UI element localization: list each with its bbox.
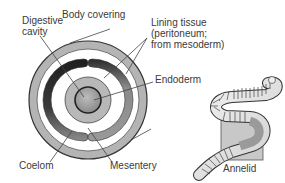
cross-section	[29, 41, 147, 159]
lining-tissue-label: Lining tissue (peritoneum; from mesoderm…	[151, 17, 224, 50]
endoderm-label: Endoderm	[155, 74, 201, 85]
digestive-cavity-label-line2: cavity	[22, 26, 63, 37]
body-covering-label: Body covering	[62, 9, 125, 20]
lining-tissue-label-line3: from mesoderm)	[151, 39, 224, 50]
digestive-cavity-label-line1: Digestive	[22, 15, 63, 26]
coelomate-diagram: Digestive cavity Body covering Lining ti…	[0, 0, 285, 183]
annelid-illustration	[199, 77, 277, 176]
digestive-cavity	[75, 87, 101, 113]
annelid-label: Annelid	[223, 163, 256, 174]
coelom-label: Coelom	[19, 160, 53, 171]
mesentery-label: Mesentery	[110, 160, 157, 171]
digestive-cavity-label: Digestive cavity	[22, 15, 63, 37]
lining-tissue-label-line2: (peritoneum;	[151, 28, 224, 39]
lining-tissue-label-line1: Lining tissue	[151, 17, 224, 28]
